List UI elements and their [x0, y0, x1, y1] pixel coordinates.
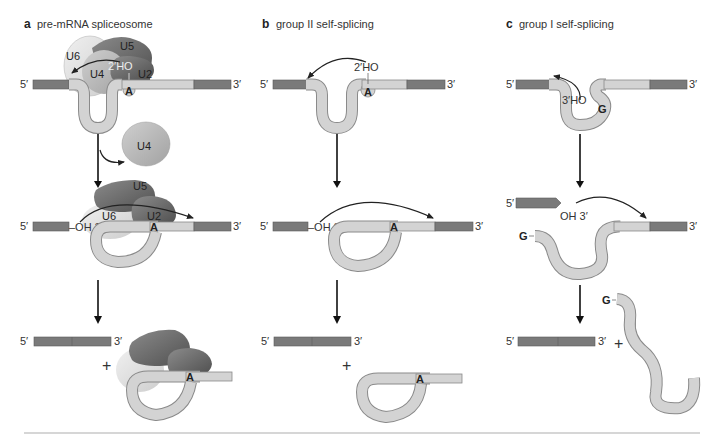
exon-3-prime	[194, 80, 231, 89]
panel-b: b group II self-splicing A 2′HO 5′ 3′ –O…	[260, 17, 483, 417]
exon-5-prime-b2	[273, 222, 308, 231]
ligated-exons	[34, 337, 111, 346]
guanosine-c3: G	[602, 294, 611, 306]
three-prime-label-2: 3′	[233, 220, 241, 232]
panel-a-title: pre-mRNA spliceosome	[37, 18, 153, 30]
exon-5-prime-c2	[516, 198, 561, 208]
three-prime-label-c: 3′	[689, 78, 697, 90]
exon-3-prime-b2	[435, 222, 473, 231]
plus-sign-b: +	[342, 357, 351, 374]
panel-b-letter: b	[262, 17, 269, 31]
branch-a-b3: A	[416, 373, 424, 385]
five-prime-label-c: 5′	[506, 78, 514, 90]
plus-sign-c: +	[614, 335, 623, 352]
branch-a: A	[125, 85, 133, 97]
three-prime-ho-label: 3′HO	[562, 94, 587, 106]
ligated-exons-b	[274, 337, 351, 346]
oh-label-c2: OH 3′	[560, 210, 588, 222]
five-prime-label: 5′	[20, 78, 28, 90]
five-prime-label-b: 5′	[260, 78, 268, 90]
u2-label: U2	[138, 68, 152, 80]
u4-released-label: U4	[137, 140, 151, 152]
five-prime-label-c3: 5′	[506, 335, 514, 347]
two-prime-ho-label: 2′HO	[108, 60, 133, 72]
five-prime-label-c2: 5′	[506, 197, 514, 209]
splicing-diagram: a pre-mRNA spliceosome U6 U5 U4 U2 2′HO …	[0, 0, 717, 440]
exon-5-prime	[33, 80, 69, 89]
u4-label: U4	[90, 68, 104, 80]
exon-3-prime-c2	[650, 222, 687, 231]
branch-a-b2: A	[390, 221, 398, 233]
panel-b-title: group II self-splicing	[276, 18, 374, 30]
five-prime-label-b2: 5′	[260, 220, 268, 232]
panel-c-title: group I self-splicing	[519, 18, 614, 30]
exon-5-prime-b	[273, 80, 308, 89]
three-prime-label-b2: 3′	[475, 220, 483, 232]
exon-3-prime-2	[194, 222, 231, 231]
u6-label: U6	[66, 50, 80, 62]
three-prime-label: 3′	[233, 78, 241, 90]
guanosine-c: G	[598, 103, 607, 115]
five-prime-label-3: 5′	[20, 335, 28, 347]
exon-5-prime-2	[33, 222, 69, 231]
five-prime-label-2: 5′	[20, 220, 28, 232]
branch-a-b: A	[364, 86, 372, 98]
exon-3-prime-c	[650, 80, 687, 89]
two-prime-ho-label-b: 2′HO	[354, 61, 379, 73]
panel-a-letter: a	[24, 17, 31, 31]
ligated-exons-c	[518, 337, 595, 346]
exon-3-prime-b	[407, 80, 445, 89]
plus-sign: +	[102, 357, 111, 374]
exon-5-prime-c	[516, 80, 551, 89]
three-prime-label-b: 3′	[447, 78, 455, 90]
u5-label-2: U5	[133, 180, 147, 192]
branch-a-3: A	[186, 371, 194, 383]
three-prime-label-c2: 3′	[689, 220, 697, 232]
branch-a-2: A	[150, 221, 158, 233]
three-prime-label-b3: 3′	[354, 335, 362, 347]
guanosine-c2: G	[519, 230, 528, 242]
five-prime-label-b3: 5′	[261, 335, 269, 347]
three-prime-label-c3: 3′	[598, 335, 606, 347]
u5-label: U5	[120, 40, 134, 52]
panel-c-letter: c	[506, 17, 513, 31]
panel-a: a pre-mRNA spliceosome U6 U5 U4 U2 2′HO …	[20, 17, 241, 415]
three-prime-label-3: 3′	[114, 335, 122, 347]
panel-c: c group I self-splicing G 3′HO 5′ 3′ 5′ …	[506, 17, 697, 408]
u6-label-2: U6	[102, 210, 116, 222]
